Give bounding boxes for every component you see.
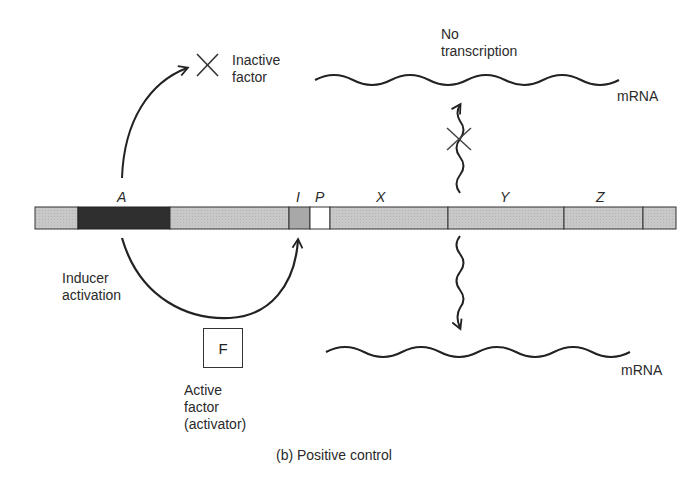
segment-gene-a — [78, 207, 170, 229]
blocked-transcription-arrow — [457, 105, 464, 193]
block-x-icon — [447, 128, 471, 150]
segment-left-flank — [35, 207, 78, 229]
segment-i-site — [289, 207, 310, 229]
mrna-top-wave — [315, 75, 619, 85]
arrow-to-inactive-factor — [122, 68, 187, 178]
no-transcription-line2: transcription — [441, 43, 517, 60]
gene-label-z: Z — [596, 189, 605, 205]
inactive-factor-label: Inactive factor — [232, 52, 280, 86]
mrna-top-label: mRNA — [617, 88, 658, 105]
inducer-line1: Inducer — [62, 270, 121, 287]
gene-label-i: I — [296, 189, 300, 205]
inducer-activation-arrow — [122, 238, 298, 318]
active-factor-box: F — [203, 328, 243, 368]
diagram-canvas — [0, 0, 694, 486]
active-factor-line1: Active — [184, 382, 246, 399]
gene-label-p: P — [315, 189, 324, 205]
inducer-activation-label: Inducer activation — [62, 270, 121, 304]
segment-gene-y — [448, 207, 564, 229]
segment-gene-z — [564, 207, 643, 229]
factor-letter: F — [218, 340, 227, 357]
gene-label-a: A — [117, 189, 126, 205]
figure-caption: (b) Positive control — [276, 447, 392, 464]
inactive-factor-line1: Inactive — [232, 52, 280, 69]
active-factor-line3: (activator) — [184, 416, 246, 433]
transcription-arrow — [457, 236, 464, 328]
segment-promoter — [310, 207, 330, 229]
no-transcription-label: No transcription — [441, 26, 517, 60]
mrna-bottom-label: mRNA — [621, 362, 662, 379]
segment-gene-x — [330, 207, 448, 229]
gene-label-y: Y — [500, 189, 509, 205]
segment-right-flank — [643, 207, 676, 229]
inducer-line2: activation — [62, 287, 121, 304]
gene-label-x: X — [376, 189, 385, 205]
inactive-factor-line2: factor — [232, 69, 280, 86]
mrna-bottom-wave — [326, 347, 630, 357]
inactive-factor-x-icon — [197, 54, 218, 76]
segment-spacer — [170, 207, 289, 229]
active-factor-label: Active factor (activator) — [184, 382, 246, 433]
no-transcription-line1: No — [441, 26, 517, 43]
dna-strand — [35, 207, 676, 229]
active-factor-line2: factor — [184, 399, 246, 416]
